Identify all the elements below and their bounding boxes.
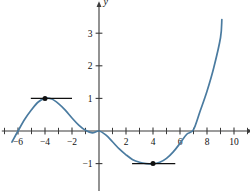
x-tick-label: 8 [205, 137, 210, 147]
extremum-point-marker [43, 96, 48, 101]
y-tick-label: −1 [82, 159, 92, 169]
y-tick-label: 1 [88, 94, 93, 104]
x-tick-label: 4 [151, 137, 156, 147]
y-tick-label: 2 [88, 61, 93, 71]
y-axis-label: y [103, 0, 109, 7]
chart-figure: −6−4−2246810 −1123 xy [0, 0, 250, 191]
cubic-function-plot: −6−4−2246810 −1123 xy [0, 0, 250, 191]
x-tick-label: 10 [229, 137, 239, 147]
y-tick-label: 3 [88, 29, 93, 39]
plot-background [0, 0, 250, 191]
x-tick-label: −4 [40, 137, 50, 147]
extremum-point-marker [151, 161, 156, 166]
x-tick-label: −2 [67, 137, 77, 147]
x-tick-label: 2 [124, 137, 129, 147]
